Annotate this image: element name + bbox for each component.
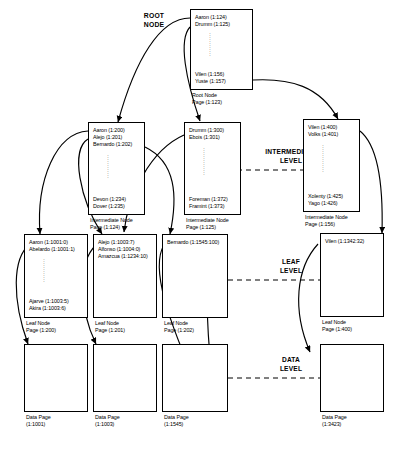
data-page-1-caption: Data Page (1:1001) [26,414,51,429]
data-page-1[interactable] [24,344,88,412]
caption-line2: (1:1545) [164,421,189,428]
data-page-2-caption: Data Page (1:1003) [95,414,120,429]
data-page-4[interactable] [320,344,384,412]
caption-line2: (1:3423) [322,421,347,428]
caption-line2: (1:1003) [95,421,120,428]
data-page-3[interactable] [162,344,228,412]
data-page-4-caption: Data Page (1:3423) [322,414,347,429]
caption-line1: Data Page [26,414,51,421]
data-page-2[interactable] [93,344,157,412]
data-page-3-caption: Data Page (1:1545) [164,414,189,429]
diagram-canvas: ROOT NODE Aaron (1:124) Drumm (1:125) ::… [0,0,398,462]
caption-line2: (1:1001) [26,421,51,428]
caption-line1: Data Page [322,414,347,421]
caption-line1: Data Page [95,414,120,421]
caption-line1: Data Page [164,414,189,421]
